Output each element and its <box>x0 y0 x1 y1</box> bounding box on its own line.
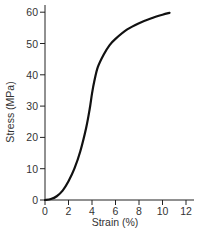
x-ticks: 024681012 <box>42 200 192 217</box>
y-tick-label: 30 <box>26 100 38 112</box>
y-ticks: 0102030405060 <box>26 6 45 206</box>
y-tick-label: 60 <box>26 6 38 18</box>
y-tick-label: 0 <box>32 194 38 206</box>
x-axis-title: Strain (%) <box>92 216 139 228</box>
y-tick-label: 40 <box>26 69 38 81</box>
y-tick-label: 10 <box>26 163 38 175</box>
y-tick-label: 20 <box>26 131 38 143</box>
x-tick-label: 2 <box>66 205 72 217</box>
y-axis-title: Stress (MPa) <box>4 81 16 142</box>
y-tick-label: 50 <box>26 38 38 50</box>
x-tick-label: 12 <box>180 205 192 217</box>
stress-strain-curve <box>45 13 170 200</box>
x-tick-label: 10 <box>157 205 169 217</box>
x-tick-label: 0 <box>42 205 48 217</box>
stress-strain-chart: 0102030405060 024681012 Strain (%) Stres… <box>0 0 205 240</box>
